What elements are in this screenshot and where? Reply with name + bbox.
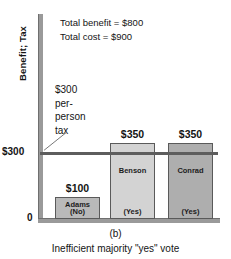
totals-annotation: Total benefit = $800 Total cost = $900 bbox=[60, 16, 143, 44]
y-tick-300: $300 bbox=[2, 146, 24, 157]
bar-name-label: Conrad bbox=[169, 166, 212, 175]
y-axis bbox=[38, 14, 43, 222]
tax-note-line-3: person bbox=[55, 110, 86, 124]
tax-note-line-1: $300 bbox=[55, 83, 86, 97]
bar-name-label: Benson bbox=[111, 166, 154, 175]
bar-vote-label: (Yes) bbox=[169, 207, 212, 216]
panel-label: (b) bbox=[0, 228, 231, 239]
total-benefit-label: Total benefit = $800 bbox=[60, 16, 143, 30]
figure-panel-b: Benefit; Tax $300 0 Total benefit = $800… bbox=[0, 0, 231, 259]
y-tick-0: 0 bbox=[27, 212, 33, 223]
bar-value-label: $350 bbox=[110, 128, 155, 140]
bar-adams: Adams(No) bbox=[55, 197, 100, 219]
leader-line-icon bbox=[42, 131, 70, 153]
bar-value-label: $100 bbox=[55, 182, 100, 194]
bar-vote-label: (No) bbox=[56, 207, 99, 216]
per-person-tax-note: $300 per- person tax bbox=[55, 83, 86, 137]
tax-note-line-2: per- bbox=[55, 97, 86, 111]
total-cost-label: Total cost = $900 bbox=[60, 30, 143, 44]
bar-vote-label: (Yes) bbox=[111, 207, 154, 216]
figure-caption: Inefficient majority "yes" vote bbox=[0, 243, 231, 254]
y-axis-title: Benefit; Tax bbox=[17, 16, 28, 92]
bar-value-label: $350 bbox=[168, 128, 213, 140]
reference-line-300 bbox=[40, 152, 218, 155]
